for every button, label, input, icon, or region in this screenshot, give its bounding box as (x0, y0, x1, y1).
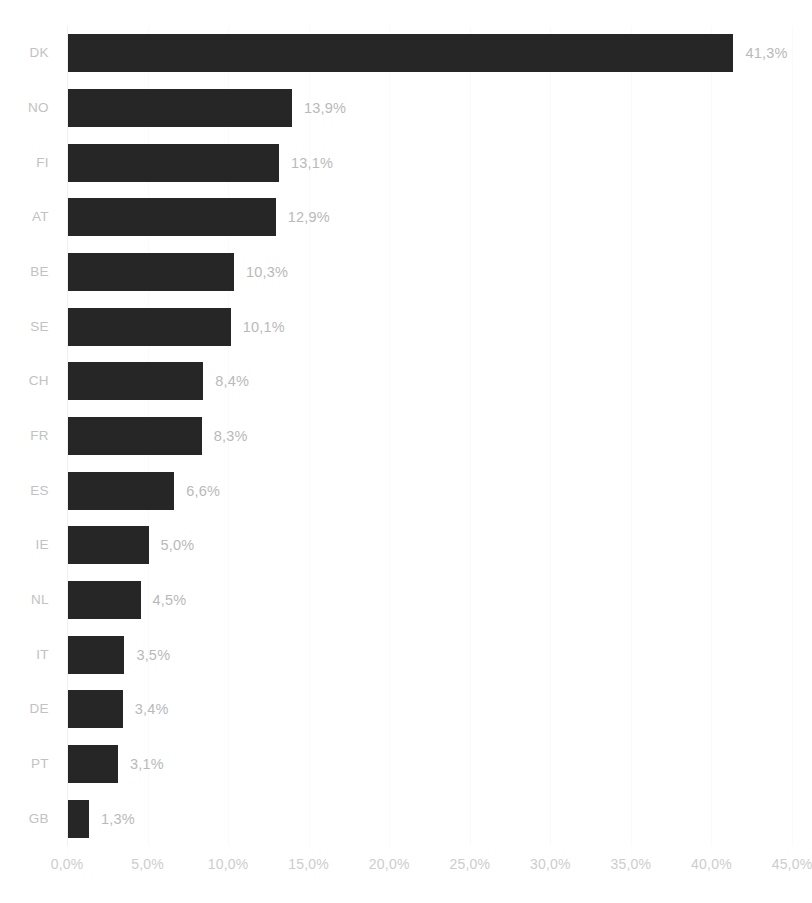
bar-value-label: 3,4% (135, 690, 169, 728)
bar-row[interactable]: 41,3% (67, 34, 792, 72)
category-label-gb: GB (29, 800, 49, 838)
x-tick-label: 45,0% (772, 856, 812, 872)
bar-value-label: 3,1% (130, 745, 164, 783)
bar[interactable] (68, 800, 89, 838)
bar[interactable] (68, 690, 123, 728)
bar-value-label: 8,4% (215, 362, 249, 400)
bar-row[interactable]: 8,4% (67, 362, 792, 400)
bar-row[interactable]: 13,1% (67, 144, 792, 182)
x-tick-label: 5,0% (131, 856, 164, 872)
x-tick-label: 0,0% (51, 856, 84, 872)
bar[interactable] (68, 253, 234, 291)
bar-value-label: 1,3% (101, 800, 135, 838)
x-tick-label: 35,0% (611, 856, 652, 872)
bar-value-label: 8,3% (214, 417, 248, 455)
bar-value-label: 10,1% (243, 308, 285, 346)
category-label-dk: DK (29, 34, 49, 72)
category-label-at: AT (32, 198, 49, 236)
value-axis-line (67, 26, 68, 846)
bar-value-label: 6,6% (186, 472, 220, 510)
plot-area: 41,3%13,9%13,1%12,9%10,3%10,1%8,4%8,3%6,… (67, 26, 792, 846)
category-label-fr: FR (30, 417, 49, 455)
bar[interactable] (68, 144, 279, 182)
category-label-ie: IE (35, 526, 49, 564)
bar[interactable] (68, 636, 124, 674)
bar-value-label: 3,5% (136, 636, 170, 674)
bar[interactable] (68, 34, 733, 72)
x-tick-label: 40,0% (691, 856, 732, 872)
bar[interactable] (68, 417, 202, 455)
bar-row[interactable]: 13,9% (67, 89, 792, 127)
bar[interactable] (68, 526, 149, 564)
bar[interactable] (68, 198, 276, 236)
category-label-be: BE (30, 253, 49, 291)
bar-row[interactable]: 3,4% (67, 690, 792, 728)
x-tick-label: 30,0% (530, 856, 571, 872)
category-label-nl: NL (31, 581, 49, 619)
bar-row[interactable]: 1,3% (67, 800, 792, 838)
x-axis-tick-labels: 0,0%5,0%10,0%15,0%20,0%25,0%30,0%35,0%40… (0, 856, 799, 886)
bar-row[interactable]: 5,0% (67, 526, 792, 564)
category-label-fi: FI (36, 144, 49, 182)
bar-value-label: 10,3% (246, 253, 288, 291)
bar-value-label: 5,0% (161, 526, 195, 564)
category-label-se: SE (30, 308, 49, 346)
bar-value-label: 41,3% (745, 34, 787, 72)
bar-row[interactable]: 3,5% (67, 636, 792, 674)
category-axis: DKNOFIATBESECHFRESIENLITDEPTGB (0, 26, 60, 846)
bar[interactable] (68, 362, 203, 400)
category-label-es: ES (30, 472, 49, 510)
category-label-de: DE (29, 690, 49, 728)
bar-value-label: 12,9% (288, 198, 330, 236)
bar[interactable] (68, 745, 118, 783)
category-label-it: IT (36, 636, 49, 674)
bar[interactable] (68, 308, 231, 346)
bar[interactable] (68, 472, 174, 510)
category-label-pt: PT (31, 745, 49, 783)
bar-row[interactable]: 8,3% (67, 417, 792, 455)
category-label-no: NO (28, 89, 49, 127)
x-tick-label: 10,0% (208, 856, 249, 872)
bar[interactable] (68, 89, 292, 127)
x-tick-label: 20,0% (369, 856, 410, 872)
gridline (792, 26, 793, 846)
bar-row[interactable]: 10,3% (67, 253, 792, 291)
bar-value-label: 4,5% (153, 581, 187, 619)
bar-row[interactable]: 10,1% (67, 308, 792, 346)
bar-value-label: 13,9% (304, 89, 346, 127)
bar-row[interactable]: 4,5% (67, 581, 792, 619)
bar-row[interactable]: 6,6% (67, 472, 792, 510)
x-tick-label: 25,0% (449, 856, 490, 872)
bar-value-label: 13,1% (291, 144, 333, 182)
x-tick-label: 15,0% (288, 856, 329, 872)
category-label-ch: CH (29, 362, 49, 400)
bars-layer: 41,3%13,9%13,1%12,9%10,3%10,1%8,4%8,3%6,… (67, 26, 792, 846)
bar-row[interactable]: 12,9% (67, 198, 792, 236)
bar[interactable] (68, 581, 141, 619)
bar-row[interactable]: 3,1% (67, 745, 792, 783)
